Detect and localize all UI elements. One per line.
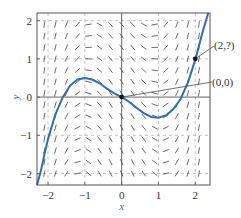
slope-segment [86, 137, 92, 140]
slope-segment [55, 90, 57, 96]
slope-segment [44, 44, 45, 50]
slope-segment [97, 114, 101, 119]
slope-segment [75, 22, 79, 27]
slope-segment [198, 136, 199, 142]
slope-segment [164, 22, 168, 27]
slope-segment [44, 136, 45, 142]
y-tick-label: 1 [27, 53, 33, 65]
slope-segment [85, 36, 91, 37]
x-axis-label: x [118, 200, 124, 212]
slope-segment [74, 149, 80, 151]
slope-segment [198, 159, 199, 165]
slope-segment [175, 136, 178, 142]
slope-segment [65, 33, 67, 39]
slope-segment [131, 159, 134, 165]
slope-segment [131, 79, 135, 84]
slope-segment [54, 136, 56, 142]
slope-segment [65, 79, 68, 85]
slope-segment [55, 44, 57, 50]
slope-segment [142, 148, 146, 153]
slope-segment [176, 67, 179, 73]
slope-segment [44, 67, 45, 73]
slope-segment [109, 79, 113, 84]
slope-segment [98, 125, 102, 130]
y-tick-label: −2 [20, 168, 32, 180]
slope-segment [198, 147, 199, 153]
slope-segment [65, 136, 68, 142]
slope-segment [163, 103, 168, 107]
slope-segment [75, 103, 80, 107]
slope-segment [141, 68, 146, 72]
slope-segment [108, 34, 112, 39]
slope-segment [187, 44, 189, 50]
slope-segment [65, 21, 67, 27]
slope-segment [86, 126, 92, 129]
slope-segment [109, 136, 112, 142]
slope-segment [163, 126, 169, 129]
slope-segment [98, 148, 102, 153]
slope-segment [187, 33, 189, 39]
slope-segment [109, 125, 112, 131]
slope-segment [163, 138, 169, 141]
slope-segment [142, 102, 146, 107]
slope-segment [152, 149, 157, 153]
slope-segment [175, 90, 178, 96]
slope-segment [65, 102, 68, 108]
slope-segment [109, 159, 112, 165]
slope-segment [97, 23, 103, 26]
slope-segment [176, 33, 178, 39]
y-axis-label: y [9, 95, 21, 101]
annotation-label: (0,0) [212, 76, 233, 89]
slope-segment [175, 125, 178, 131]
slope-segment [108, 22, 113, 27]
slope-segment [97, 91, 102, 96]
slope-segment [97, 102, 101, 107]
slope-segment [131, 68, 135, 73]
slope-segment [44, 21, 45, 27]
slope-segment [97, 45, 102, 49]
slope-segment [109, 45, 113, 50]
y-tick-label: −1 [20, 129, 32, 141]
slope-segment [75, 68, 80, 72]
slope-segment [85, 104, 91, 106]
slope-segment [187, 125, 189, 131]
slope-segment [198, 90, 199, 96]
slope-segment [55, 79, 57, 85]
slope-segment [85, 92, 91, 94]
slope-segment [65, 44, 67, 50]
slope-segment [55, 21, 57, 27]
slope-segment [152, 70, 158, 71]
slope-segment [131, 45, 135, 50]
slope-segment [142, 125, 146, 130]
slope-segment [176, 21, 178, 27]
slope-segment [75, 126, 81, 129]
slope-segment [152, 24, 158, 25]
slope-segment [198, 113, 199, 119]
slope-segment [198, 21, 199, 27]
slope-segment [198, 67, 199, 73]
slope-segment [65, 125, 68, 131]
slope-segment [131, 34, 135, 39]
annotation-label: (2,?) [214, 39, 235, 52]
slope-segment [75, 45, 79, 50]
slope-segment [152, 36, 158, 37]
slope-segment [176, 44, 178, 50]
slope-segment [163, 91, 168, 95]
slope-segment [131, 148, 134, 154]
slope-segment [131, 125, 134, 131]
slope-segment [75, 138, 81, 141]
slope-segment [55, 67, 57, 73]
slope-segment [85, 70, 91, 71]
slope-segment [109, 113, 112, 119]
slope-segment [141, 23, 147, 26]
slope-segment [164, 33, 168, 38]
slope-segment [44, 56, 45, 62]
slope-segment [131, 113, 134, 119]
slope-segment [187, 90, 189, 96]
slope-segment [109, 102, 113, 107]
y-tick-label: 2 [27, 15, 33, 27]
slope-segment [187, 136, 189, 142]
slope-segment [44, 102, 45, 108]
slope-segment [75, 91, 80, 95]
slope-segment [175, 148, 178, 154]
